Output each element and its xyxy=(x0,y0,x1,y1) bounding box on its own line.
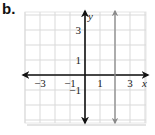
x-tick-label: 1 xyxy=(97,77,103,89)
x-axis-label: x xyxy=(141,77,147,89)
x-tick-label: 3 xyxy=(127,77,133,89)
coordinate-plane: −3−11331−1xy xyxy=(0,0,155,135)
x-tick-label: −3 xyxy=(34,77,46,89)
y-tick-label: −1 xyxy=(69,84,81,96)
y-axis-label: y xyxy=(87,10,93,22)
y-tick-label: 1 xyxy=(76,54,82,66)
y-tick-label: 3 xyxy=(76,24,82,36)
